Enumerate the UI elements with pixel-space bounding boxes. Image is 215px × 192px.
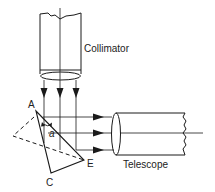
vertex-c-label: C [46, 177, 53, 188]
collimator-label: Collimator [84, 43, 130, 54]
angle-a-label: a [49, 128, 55, 139]
diagram-canvas: Collimator Telescope A C E a [0, 0, 215, 192]
telescope-label: Telescope [123, 159, 168, 170]
right-arrow-icons [93, 114, 104, 154]
collimator [40, 8, 81, 150]
vertex-a-label: A [28, 99, 35, 110]
telescope [112, 113, 204, 155]
vertex-e-label: E [87, 158, 94, 169]
down-arrow-icons [41, 88, 80, 98]
